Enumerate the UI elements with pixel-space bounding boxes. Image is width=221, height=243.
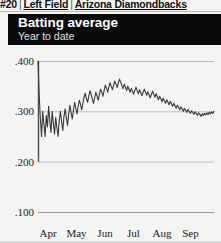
breadcrumb: #20|Left Field|Arizona Diamondbacks — [0, 0, 221, 10]
y-axis-tick-label: .200 — [8, 157, 34, 168]
y-axis-tick-label: .100 — [8, 207, 34, 218]
chart-subtitle: Year to date — [18, 30, 74, 43]
breadcrumb-rank: #20 — [0, 0, 17, 10]
chart-plot-area: .400.300.200.100 AprMayJunJulAugSep — [0, 45, 221, 243]
y-axis-tick: .100 — [4, 207, 34, 218]
y-axis-tick: .300 — [4, 106, 34, 117]
y-axis-tick-label: .300 — [8, 106, 34, 117]
chart-header-bar: Batting average Year to date — [8, 14, 221, 45]
x-axis-tick-label: Aug — [148, 227, 176, 239]
breadcrumb-team-link[interactable]: Arizona Diamondbacks — [75, 0, 187, 10]
y-axis-tick-label: .400 — [8, 56, 34, 67]
gridlines — [38, 62, 214, 213]
x-axis-tick-label: Jun — [91, 227, 119, 239]
x-axis-labels: AprMayJunJulAugSep — [0, 227, 221, 241]
batting-average-card: #20|Left Field|Arizona Diamondbacks Batt… — [0, 0, 221, 243]
chart-title: Batting average — [18, 15, 118, 31]
batting-average-line — [38, 61, 214, 137]
breadcrumb-divider — [0, 11, 221, 12]
y-axis-tick: .400 — [4, 56, 34, 67]
x-axis-tick-label: Apr — [34, 227, 62, 239]
x-axis-tick-label: Jul — [120, 227, 148, 239]
x-axis-tick-label: Sep — [177, 227, 205, 239]
x-axis-tick-label: May — [63, 227, 91, 239]
y-axis-tick: .200 — [4, 157, 34, 168]
breadcrumb-position-link[interactable]: Left Field — [23, 0, 68, 10]
